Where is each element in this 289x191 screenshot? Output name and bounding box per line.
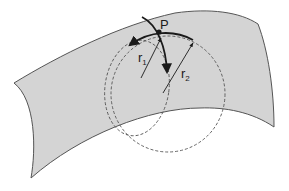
curvature-diagram: P r1 r2 — [0, 0, 289, 191]
label-r1-sub: 1 — [142, 58, 147, 67]
label-p: P — [160, 17, 169, 32]
label-r2-sub: 2 — [185, 74, 190, 83]
curved-surface — [14, 11, 274, 178]
